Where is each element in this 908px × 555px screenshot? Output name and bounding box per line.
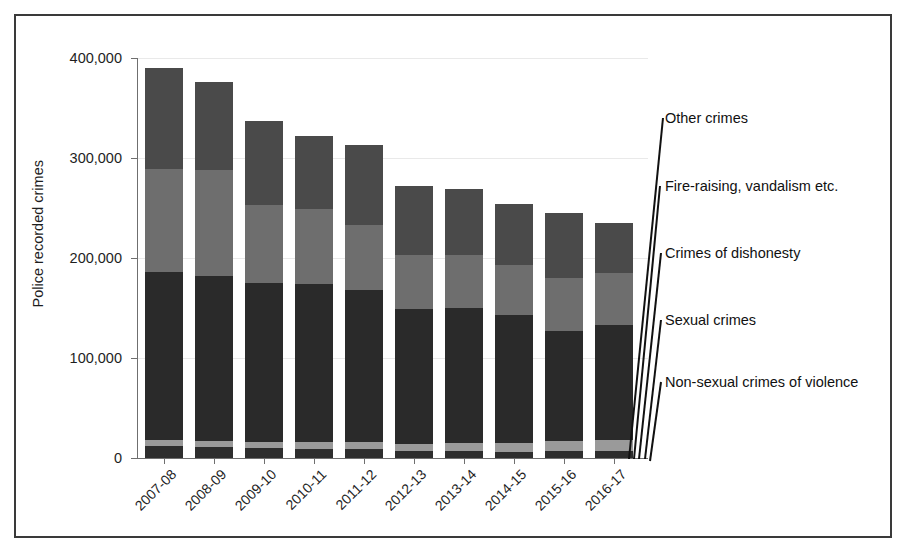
bar-segment[interactable]: [345, 225, 383, 290]
bar-segment[interactable]: [145, 440, 183, 446]
x-axis-tick: [264, 458, 265, 464]
bar-2010-11[interactable]: [295, 136, 333, 458]
callout-label: Non-sexual crimes of violence: [665, 374, 858, 390]
bar-segment[interactable]: [545, 451, 583, 458]
bar-segment[interactable]: [395, 255, 433, 309]
bar-segment[interactable]: [395, 451, 433, 458]
bar-segment[interactable]: [495, 204, 533, 265]
bar-2015-16[interactable]: [545, 213, 583, 458]
bar-2013-14[interactable]: [445, 189, 483, 458]
bar-2016-17[interactable]: [595, 223, 633, 458]
bar-segment[interactable]: [195, 170, 233, 276]
y-axis-tick: 0: [131, 458, 137, 459]
bar-segment[interactable]: [295, 209, 333, 284]
bar-segment[interactable]: [345, 290, 383, 442]
bar-segment[interactable]: [545, 213, 583, 278]
y-axis-tick-label: 0: [114, 450, 122, 466]
bar-segment[interactable]: [345, 145, 383, 225]
y-axis-tick-label: 300,000: [70, 150, 122, 166]
bar-2012-13[interactable]: [395, 186, 433, 459]
bar-segment[interactable]: [445, 308, 483, 443]
bar-segment[interactable]: [545, 441, 583, 451]
bar-segment[interactable]: [395, 444, 433, 452]
bar-segment[interactable]: [495, 315, 533, 443]
bar-segment[interactable]: [145, 272, 183, 440]
bar-segment[interactable]: [145, 68, 183, 169]
bar-segment[interactable]: [295, 136, 333, 209]
x-axis-tick: [564, 458, 565, 464]
bar-segment[interactable]: [595, 325, 633, 440]
x-axis-tick: [314, 458, 315, 464]
bar-segment[interactable]: [595, 273, 633, 325]
x-axis-tick: [214, 458, 215, 464]
bar-2007-08[interactable]: [145, 68, 183, 458]
x-axis-tick: [414, 458, 415, 464]
bar-segment[interactable]: [595, 223, 633, 273]
bar-segment[interactable]: [495, 443, 533, 452]
bar-segment[interactable]: [445, 255, 483, 308]
bar-segment[interactable]: [445, 189, 483, 255]
bar-segment[interactable]: [245, 283, 283, 442]
bar-segment[interactable]: [295, 442, 333, 449]
bar-segment[interactable]: [395, 309, 433, 444]
bar-segment[interactable]: [145, 446, 183, 458]
bar-segment[interactable]: [395, 186, 433, 255]
bar-segment[interactable]: [445, 443, 483, 451]
bar-segment[interactable]: [495, 265, 533, 315]
bar-segment[interactable]: [545, 331, 583, 441]
bar-2009-10[interactable]: [245, 121, 283, 458]
bar-segment[interactable]: [195, 276, 233, 441]
y-axis-tick: 400,000: [131, 58, 137, 59]
bar-segment[interactable]: [245, 442, 283, 448]
chart-figure: Police recorded crimes 0100,000200,00030…: [0, 0, 908, 555]
bar-2011-12[interactable]: [345, 145, 383, 459]
callout-label: Crimes of dishonesty: [665, 245, 800, 261]
y-axis-tick: 100,000: [131, 358, 137, 359]
callout-label: Other crimes: [665, 110, 748, 126]
bar-segment[interactable]: [595, 440, 633, 451]
y-axis-tick-label: 400,000: [70, 50, 122, 66]
gridline: [138, 58, 648, 59]
x-axis-tick: [364, 458, 365, 464]
y-axis-tick-label: 100,000: [70, 350, 122, 366]
y-axis-tick-label: 200,000: [70, 250, 122, 266]
x-axis-tick: [464, 458, 465, 464]
bar-segment[interactable]: [145, 169, 183, 272]
bar-segment[interactable]: [195, 441, 233, 447]
bar-segment[interactable]: [195, 82, 233, 170]
plot-area: 0100,000200,000300,000400,000 2007-08200…: [137, 58, 647, 458]
bar-segment[interactable]: [545, 278, 583, 331]
bar-segment[interactable]: [345, 442, 383, 450]
y-axis-title: Police recorded crimes: [30, 160, 46, 307]
x-axis-tick: [164, 458, 165, 464]
bar-2008-09[interactable]: [195, 82, 233, 459]
bar-segment[interactable]: [345, 449, 383, 458]
bar-2014-15[interactable]: [495, 204, 533, 459]
bar-segment[interactable]: [195, 447, 233, 459]
bar-segment[interactable]: [245, 205, 283, 283]
bar-segment[interactable]: [445, 451, 483, 458]
x-axis-tick: [514, 458, 515, 464]
callout-label: Sexual crimes: [665, 312, 756, 328]
bar-segment[interactable]: [295, 284, 333, 442]
x-axis-tick: [614, 458, 615, 464]
bar-segment[interactable]: [245, 448, 283, 458]
bar-segment[interactable]: [245, 121, 283, 205]
callout-label: Fire-raising, vandalism etc.: [665, 178, 838, 194]
y-axis-tick: 200,000: [131, 258, 137, 259]
bar-segment[interactable]: [595, 451, 633, 458]
bar-segment[interactable]: [295, 449, 333, 459]
y-axis-tick: 300,000: [131, 158, 137, 159]
